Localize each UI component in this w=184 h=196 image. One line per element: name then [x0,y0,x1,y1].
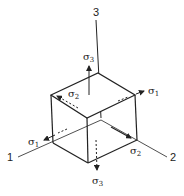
stress-cube-diagram: 3 1 2 σ3 σ1 σ2 σ1 σ2 σ3 [0,0,184,196]
sigma-index: 3 [90,56,94,64]
sigma3-bottom-arrow [96,140,97,170]
sigma3-top-label: σ3 [83,52,94,64]
cube [51,73,137,163]
sigma1-left-label: σ1 [28,137,39,149]
sigma-symbol: σ [83,51,90,62]
sigma3-bottom-label: σ3 [92,176,103,188]
sigma1-right-arrow [136,91,144,94]
diagram-canvas [0,0,184,196]
sigma-index: 3 [99,180,103,188]
sigma-index: 1 [155,90,159,98]
sigma-index: 2 [137,150,141,158]
sigma2-top-label: σ2 [68,89,79,101]
sigma-symbol: σ [68,88,75,99]
sigma-index: 1 [35,141,39,149]
axis-3-label: 3 [93,7,99,18]
sigma-index: 2 [75,93,79,101]
axis-2-label: 2 [170,152,176,163]
sigma-symbol: σ [148,85,155,96]
sigma2-bottom-label: σ2 [130,146,141,158]
axis-1-label: 1 [7,152,13,163]
sigma1-right-label: σ1 [148,86,159,98]
sigma-symbol: σ [130,145,137,156]
sigma-symbol: σ [28,136,35,147]
sigma-symbol: σ [92,175,99,186]
sigma2-bottom-arrow [111,127,131,138]
